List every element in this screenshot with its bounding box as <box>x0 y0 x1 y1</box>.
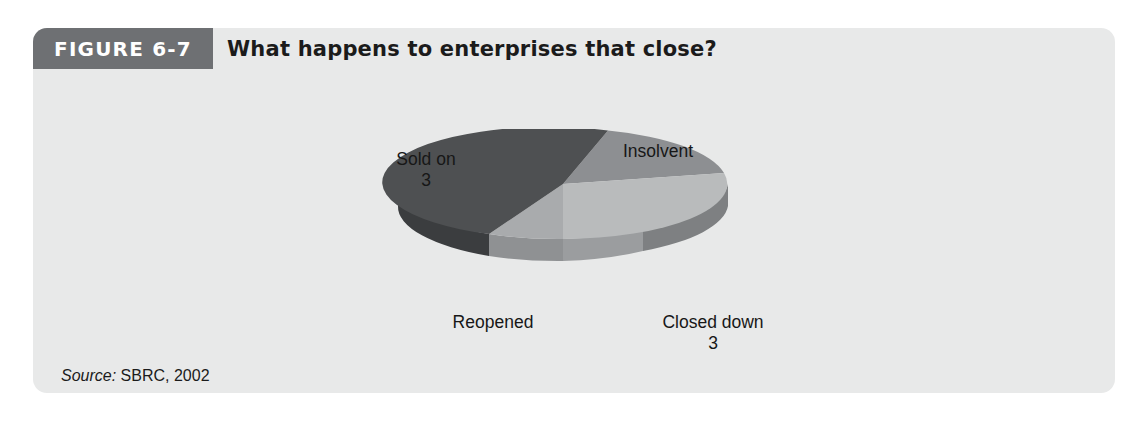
figure-panel: FIGURE 6-7 What happens to enterprises t… <box>33 28 1115 393</box>
pie-label-insolvent: Insolvent <box>593 141 723 162</box>
pie-label-closed-down-value: 3 <box>633 333 793 354</box>
source-label: Source: <box>61 367 116 384</box>
figure-number-tag: FIGURE 6-7 <box>33 28 213 69</box>
figure-number-label: FIGURE 6-7 <box>54 37 192 61</box>
pie-label-closed-down-text: Closed down <box>662 312 763 332</box>
pie-label-reopened-text: Reopened <box>453 312 534 332</box>
pie-label-sold-on-value: 3 <box>366 170 486 191</box>
figure-title: What happens to enterprises that close? <box>227 28 717 69</box>
pie-label-closed-down: Closed down 3 <box>633 312 793 355</box>
source-note: Source: SBRC, 2002 <box>61 367 210 385</box>
source-text: SBRC, 2002 <box>121 367 210 384</box>
pie-label-insolvent-text: Insolvent <box>623 141 693 161</box>
pie-label-sold-on-text: Sold on <box>396 149 455 169</box>
pie-label-sold-on: Sold on 3 <box>366 149 486 192</box>
pie-label-reopened: Reopened <box>423 312 563 333</box>
pie-chart-area: Sold on 3 Insolvent Reopened Closed down… <box>33 69 1115 393</box>
